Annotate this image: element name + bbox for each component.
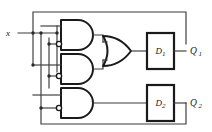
junction-x-bus2	[39, 31, 42, 34]
and3-inversion-bubble	[56, 105, 61, 110]
flipflop-d2	[147, 85, 186, 121]
junction-and2-in1	[31, 63, 34, 66]
or-gate-1	[103, 36, 147, 66]
junction-and2-in2	[47, 74, 50, 77]
output-label-q2: Q2	[190, 98, 202, 110]
and2-inversion-bubble	[56, 73, 61, 78]
circuit-diagram: x	[0, 0, 212, 132]
and1-output-wire	[93, 35, 103, 42]
left-bus-wires	[33, 26, 57, 108]
junction-and1-in2	[47, 42, 50, 45]
and-gate-2	[33, 54, 103, 84]
junction-and3-in2	[39, 106, 42, 109]
and2-output-wire	[93, 60, 103, 69]
circuit-canvas: x	[0, 0, 212, 132]
junction-x-bus1	[31, 31, 34, 34]
output-label-q1: Q1	[190, 46, 202, 58]
wire-junctions	[31, 31, 58, 109]
and-gate-3	[33, 88, 147, 118]
junction-x-bus4	[55, 31, 58, 34]
and-gate-1	[41, 20, 103, 50]
and1-inversion-bubble	[56, 41, 61, 46]
flipflop-d1	[147, 33, 186, 69]
input-label-x: x	[5, 28, 10, 38]
